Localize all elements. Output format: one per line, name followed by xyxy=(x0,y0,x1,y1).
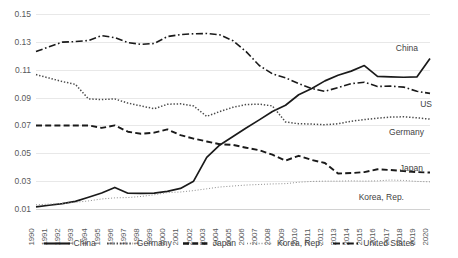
legend-label: China xyxy=(74,238,96,248)
end-label-united-states: US xyxy=(420,99,432,109)
series-line-germany xyxy=(36,75,430,125)
legend-swatch-solid xyxy=(44,239,70,248)
y-axis-tick-label: 0.07 xyxy=(14,120,31,130)
y-axis-tick-label: 0.03 xyxy=(14,176,31,186)
legend-item-germany[interactable]: Germany xyxy=(107,238,172,248)
y-axis-tick-label: 0.05 xyxy=(14,148,31,158)
y-axis-tick-label: 0.13 xyxy=(14,37,31,47)
legend-swatch-fine-dotted xyxy=(247,239,273,248)
legend-item-japan[interactable]: Japan xyxy=(183,238,236,248)
series-line-japan xyxy=(36,125,430,173)
legend-item-china[interactable]: China xyxy=(44,238,96,248)
end-label-china: China xyxy=(396,43,418,53)
end-label-korea-rep: Korea, Rep. xyxy=(359,192,404,202)
legend-item-korea-rep[interactable]: Korea, Rep. xyxy=(247,238,322,248)
legend-label: Korea, Rep. xyxy=(277,238,322,248)
y-axis-tick-label: 0.09 xyxy=(14,93,31,103)
legend-label: Germany xyxy=(137,238,172,248)
series-line-united-states xyxy=(36,34,430,94)
x-axis-ticks: 1990199119921993199419951996199719981999… xyxy=(36,211,430,237)
end-label-japan: Japan xyxy=(400,163,423,173)
series-layer xyxy=(36,14,430,209)
y-axis-tick-label: 0.01 xyxy=(14,204,31,214)
legend-swatch-dashed xyxy=(183,239,209,248)
plot-area: 0.150.130.110.090.070.050.030.01 xyxy=(36,14,430,209)
chart-root: 0.150.130.110.090.070.050.030.01 1990199… xyxy=(0,0,458,258)
legend-item-united-states[interactable]: United States xyxy=(333,238,414,248)
legend-label: United States xyxy=(363,238,414,248)
gridline-0.01 xyxy=(36,209,430,210)
y-axis-tick-label: 0.15 xyxy=(14,9,31,19)
end-label-germany: Germany xyxy=(389,127,424,137)
legend-swatch-dash-dot xyxy=(333,239,359,248)
y-axis-tick-label: 0.11 xyxy=(15,65,31,75)
legend-label: Japan xyxy=(213,238,236,248)
legend-swatch-dotted xyxy=(107,239,133,248)
chart-legend: ChinaGermanyJapanKorea, Rep.United State… xyxy=(0,238,458,248)
series-line-china xyxy=(36,59,430,207)
